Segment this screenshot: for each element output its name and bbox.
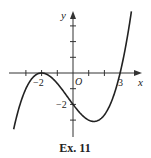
- x-tick-label-neg2: −2: [33, 77, 44, 88]
- y-axis-arrow-icon: [70, 11, 76, 19]
- cubic-function-figure: y x O −2 3 −2 Ex. 11: [0, 0, 151, 158]
- x-tick-label-3: 3: [118, 77, 123, 88]
- y-axis-label: y: [60, 9, 66, 21]
- x-axis-label: x: [137, 76, 143, 88]
- figure-caption: Ex. 11: [59, 141, 90, 155]
- y-tick-label-neg2: −2: [56, 99, 67, 110]
- origin-label: O: [75, 76, 82, 87]
